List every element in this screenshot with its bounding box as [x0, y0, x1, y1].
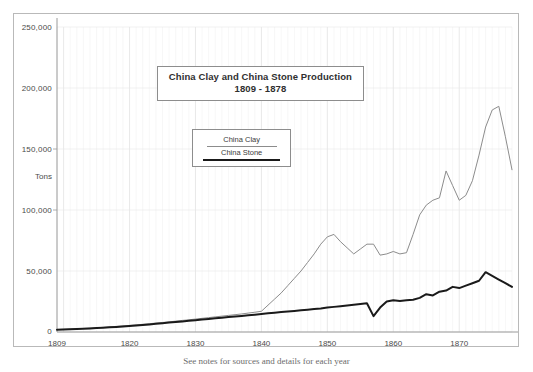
chart-title-line2: 1809 - 1878: [168, 83, 352, 95]
chart-canvas: [0, 0, 533, 372]
y-axis-tick-250000: 250,000: [6, 23, 52, 32]
x-axis-tick-1820: 1820: [110, 339, 150, 348]
legend-label-china-clay: China Clay: [193, 134, 290, 145]
x-axis-tick-1850: 1850: [307, 339, 347, 348]
x-axis-tick-1809: 1809: [37, 339, 77, 348]
x-axis-tick-1840: 1840: [241, 339, 281, 348]
y-axis-title: Tons: [6, 172, 52, 181]
x-axis-tick-1830: 1830: [175, 339, 215, 348]
legend-label-china-stone: China Stone: [193, 147, 290, 158]
y-axis-tick-0: 0: [6, 327, 52, 336]
y-axis-tick-150000: 150,000: [6, 145, 52, 154]
chart-title-box: China Clay and China Stone Production 18…: [157, 66, 363, 101]
legend-entry-china-clay: China Clay: [193, 134, 290, 147]
series-line-china-stone: [57, 272, 512, 330]
y-axis-tick-200000: 200,000: [6, 84, 52, 93]
chart-title-line1: China Clay and China Stone Production: [168, 71, 352, 83]
y-axis-tick-50000: 50,000: [6, 267, 52, 276]
legend-entry-china-stone: China Stone: [193, 147, 290, 161]
figure-caption: See notes for sources and details for ea…: [0, 356, 533, 366]
x-axis-tick-1870: 1870: [439, 339, 479, 348]
x-axis-tick-1860: 1860: [373, 339, 413, 348]
chart-legend: China Clay China Stone: [192, 129, 291, 167]
y-axis-tick-100000: 100,000: [6, 206, 52, 215]
legend-swatch-china-stone: [203, 159, 281, 161]
